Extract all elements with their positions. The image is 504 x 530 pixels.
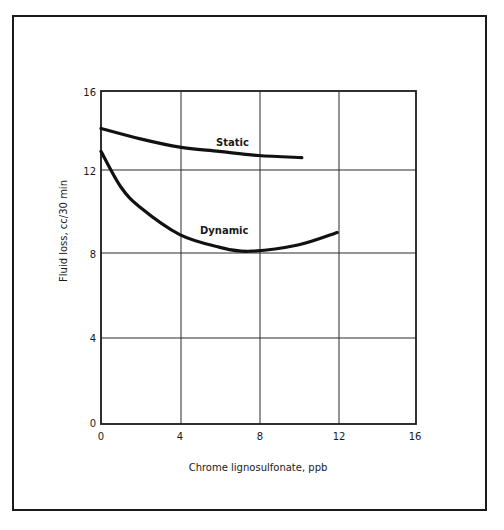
chart-plot: Static Dynamic 16 12 8 4 0 0 4 8 12 16 C… (0, 0, 504, 530)
x-tick: 4 (177, 431, 183, 442)
y-tick-labels: 16 12 8 4 0 (83, 87, 96, 429)
x-tick: 8 (257, 431, 263, 442)
y-tick: 8 (90, 249, 96, 260)
y-axis-label: Fluid loss, cc/30 min (58, 180, 69, 282)
x-axis-label: Chrome lignosulfonate, ppb (189, 462, 328, 473)
y-tick: 12 (83, 166, 96, 177)
series-dynamic-line (101, 151, 337, 251)
y-tick: 4 (90, 333, 96, 344)
y-tick: 16 (83, 87, 96, 98)
y-tick: 0 (90, 418, 96, 429)
x-tick: 12 (333, 431, 346, 442)
series-static-line (101, 128, 302, 157)
x-tick: 0 (98, 431, 104, 442)
series-dynamic-label: Dynamic (200, 225, 249, 236)
series-static-label: Static (216, 137, 249, 148)
x-tick-labels: 0 4 8 12 16 (98, 431, 422, 442)
x-tick: 16 (409, 431, 422, 442)
